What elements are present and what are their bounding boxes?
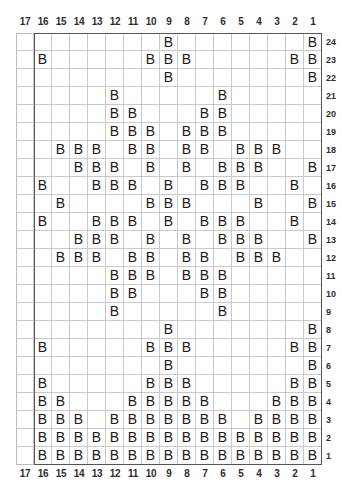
cell-r19-c9[interactable] (160, 123, 178, 141)
cell-r15-c5[interactable] (232, 195, 250, 213)
cell-r4-c9[interactable]: B (160, 393, 178, 411)
cell-r16-c1[interactable] (304, 177, 322, 195)
cell-r8-c13[interactable] (88, 321, 106, 339)
cell-r14-c11[interactable]: B (124, 213, 142, 231)
cell-r11-c10[interactable]: B (142, 267, 160, 285)
cell-r12-c11[interactable]: B (124, 249, 142, 267)
cell-r14-c7[interactable]: B (196, 213, 214, 231)
cell-r20-c13[interactable] (88, 105, 106, 123)
cell-r13-c8[interactable]: B (178, 231, 196, 249)
cell-r16-c6[interactable]: B (214, 177, 232, 195)
cell-r2-c13[interactable]: B (88, 429, 106, 447)
cell-r21-c5[interactable] (232, 87, 250, 105)
cell-r17-c8[interactable]: B (178, 159, 196, 177)
cell-r16-c11[interactable]: B (124, 177, 142, 195)
cell-r11-c7[interactable]: B (196, 267, 214, 285)
cell-r4-c1[interactable]: B (304, 393, 322, 411)
cell-r23-c9[interactable]: B (160, 51, 178, 69)
cell-r4-c12[interactable] (106, 393, 124, 411)
cell-r6-c13[interactable] (88, 357, 106, 375)
cell-r5-c17[interactable] (16, 375, 34, 393)
cell-r13-c9[interactable] (160, 231, 178, 249)
cell-r17-c6[interactable]: B (214, 159, 232, 177)
cell-r17-c1[interactable]: B (304, 159, 322, 177)
cell-r9-c13[interactable] (88, 303, 106, 321)
cell-r14-c17[interactable] (16, 213, 34, 231)
cell-r17-c11[interactable] (124, 159, 142, 177)
cell-r10-c11[interactable]: B (124, 285, 142, 303)
cell-r24-c8[interactable] (178, 33, 196, 51)
cell-r19-c5[interactable] (232, 123, 250, 141)
cell-r13-c16[interactable] (34, 231, 52, 249)
cell-r15-c17[interactable] (16, 195, 34, 213)
cell-r19-c6[interactable]: B (214, 123, 232, 141)
cell-r5-c4[interactable] (250, 375, 268, 393)
cell-r23-c3[interactable] (268, 51, 286, 69)
cell-r15-c6[interactable] (214, 195, 232, 213)
cell-r11-c5[interactable] (232, 267, 250, 285)
cell-r14-c16[interactable]: B (34, 213, 52, 231)
cell-r2-c5[interactable]: B (232, 429, 250, 447)
cell-r5-c15[interactable] (52, 375, 70, 393)
cell-r5-c11[interactable] (124, 375, 142, 393)
cell-r13-c3[interactable] (268, 231, 286, 249)
cell-r15-c13[interactable] (88, 195, 106, 213)
cell-r6-c11[interactable] (124, 357, 142, 375)
cell-r20-c15[interactable] (52, 105, 70, 123)
cell-r22-c8[interactable] (178, 69, 196, 87)
cell-r1-c6[interactable]: B (214, 447, 232, 465)
cell-r8-c14[interactable] (70, 321, 88, 339)
cell-r18-c1[interactable] (304, 141, 322, 159)
cell-r13-c17[interactable] (16, 231, 34, 249)
cell-r18-c5[interactable]: B (232, 141, 250, 159)
cell-r6-c6[interactable] (214, 357, 232, 375)
cell-r21-c3[interactable] (268, 87, 286, 105)
cell-r15-c10[interactable]: B (142, 195, 160, 213)
cell-r23-c11[interactable] (124, 51, 142, 69)
cell-r14-c1[interactable] (304, 213, 322, 231)
cell-r12-c16[interactable] (34, 249, 52, 267)
cell-r2-c14[interactable]: B (70, 429, 88, 447)
cell-r23-c10[interactable]: B (142, 51, 160, 69)
cell-r4-c10[interactable]: B (142, 393, 160, 411)
cell-r24-c4[interactable] (250, 33, 268, 51)
cell-r1-c5[interactable]: B (232, 447, 250, 465)
cell-r1-c7[interactable]: B (196, 447, 214, 465)
cell-r20-c2[interactable] (286, 105, 304, 123)
cell-r22-c2[interactable] (286, 69, 304, 87)
cell-r7-c10[interactable]: B (142, 339, 160, 357)
cell-r20-c6[interactable]: B (214, 105, 232, 123)
cell-r9-c17[interactable] (16, 303, 34, 321)
cell-r7-c16[interactable]: B (34, 339, 52, 357)
cell-r3-c3[interactable]: B (268, 411, 286, 429)
cell-r2-c11[interactable]: B (124, 429, 142, 447)
cell-r19-c15[interactable] (52, 123, 70, 141)
cell-r12-c9[interactable] (160, 249, 178, 267)
cell-r7-c7[interactable] (196, 339, 214, 357)
cell-r9-c15[interactable] (52, 303, 70, 321)
cell-r12-c15[interactable]: B (52, 249, 70, 267)
cell-r24-c1[interactable]: B (304, 33, 322, 51)
cell-r19-c8[interactable]: B (178, 123, 196, 141)
cell-r21-c8[interactable] (178, 87, 196, 105)
cell-r24-c12[interactable] (106, 33, 124, 51)
cell-r12-c2[interactable] (286, 249, 304, 267)
cell-r19-c10[interactable]: B (142, 123, 160, 141)
cell-r22-c16[interactable] (34, 69, 52, 87)
cell-r10-c16[interactable] (34, 285, 52, 303)
cell-r14-c8[interactable] (178, 213, 196, 231)
cell-r17-c14[interactable]: B (70, 159, 88, 177)
cell-r8-c2[interactable] (286, 321, 304, 339)
cell-r16-c2[interactable]: B (286, 177, 304, 195)
cell-r11-c1[interactable] (304, 267, 322, 285)
cell-r10-c7[interactable]: B (196, 285, 214, 303)
cell-r22-c12[interactable] (106, 69, 124, 87)
cell-r20-c9[interactable] (160, 105, 178, 123)
cell-r8-c10[interactable] (142, 321, 160, 339)
cell-r14-c2[interactable]: B (286, 213, 304, 231)
cell-r6-c14[interactable] (70, 357, 88, 375)
cell-r22-c14[interactable] (70, 69, 88, 87)
cell-r3-c16[interactable]: B (34, 411, 52, 429)
cell-r24-c10[interactable] (142, 33, 160, 51)
cell-r6-c9[interactable]: B (160, 357, 178, 375)
